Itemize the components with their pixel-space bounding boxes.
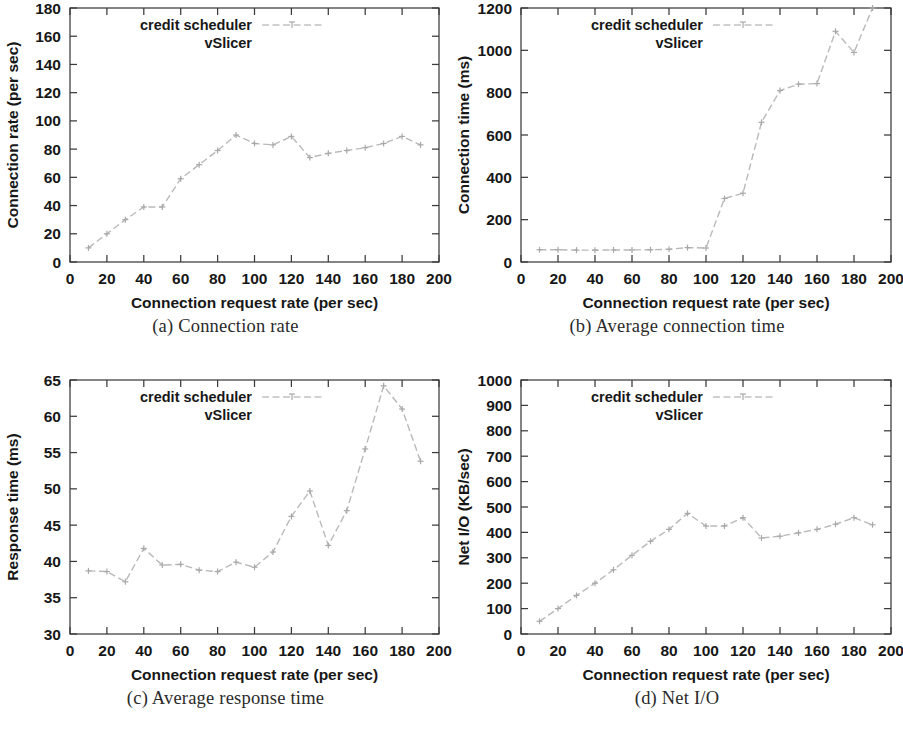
x-tick-label-1: 20 [549,642,566,659]
panel-c-caption: (c) Average response time [0,688,451,709]
data-line [88,135,420,248]
data-point [555,247,561,253]
y-tick-label-7: 140 [35,56,61,73]
y-tick-label-2: 40 [44,553,61,570]
y-tick-label-5: 100 [35,112,61,129]
data-point [362,446,368,452]
data-point [870,5,876,11]
x-tick-label-6: 120 [278,642,304,659]
data-point [777,533,783,539]
series-credit-scheduler [537,5,876,253]
x-tick-label-6: 120 [730,642,756,659]
data-point [722,523,728,529]
y-axis-title: Net I/O (KB/sec) [455,448,472,565]
x-tick-label-8: 160 [804,642,830,659]
x-tick-label-0: 0 [517,270,526,287]
x-tick-label-5: 100 [242,270,268,287]
data-point [833,521,839,527]
data-point [870,522,876,528]
y-tick-label-1: 200 [486,211,512,228]
data-point [722,196,728,202]
legend-label-1: vSlicer [204,35,252,51]
data-point [325,542,331,548]
plot-frame [521,8,891,262]
y-tick-label-2: 200 [486,575,512,592]
x-tick-label-5: 100 [693,270,719,287]
y-tick-label-7: 700 [486,448,512,465]
legend-label-1: vSlicer [204,407,252,423]
y-tick-label-4: 50 [44,480,61,497]
y-tick-label-4: 800 [486,84,512,101]
x-tick-label-7: 140 [767,270,793,287]
panel-b-caption: (b) Average connection time [451,316,903,337]
y-tick-label-8: 800 [486,422,512,439]
data-point [325,150,331,156]
data-point [362,145,368,151]
data-point [592,247,598,253]
x-tick-label-4: 80 [209,270,226,287]
x-tick-label-0: 0 [66,642,75,659]
data-line [540,513,873,621]
x-tick-label-6: 120 [730,270,756,287]
data-point [418,458,424,464]
series-credit-scheduler [537,510,876,624]
x-tick-label-7: 140 [315,270,341,287]
data-point [740,190,746,196]
y-tick-label-3: 45 [44,517,62,534]
data-point [344,148,350,154]
data-point [344,508,350,514]
chart-b-plot: 0200400600800100012000204060801001201401… [451,0,903,312]
y-tick-label-4: 400 [486,524,512,541]
y-tick-label-8: 160 [35,28,61,45]
x-tick-label-4: 80 [660,642,677,659]
chart-legend: credit schedulervSlicer [591,389,773,423]
y-tick-label-1: 20 [44,225,61,242]
data-point [418,142,424,148]
y-tick-label-2: 40 [44,197,61,214]
y-tick-label-5: 55 [44,444,62,461]
x-tick-label-5: 100 [693,642,719,659]
y-tick-label-3: 600 [486,127,512,144]
series-credit-scheduler [85,383,423,585]
series-credit-scheduler [85,132,423,251]
y-tick-label-0: 0 [503,254,512,271]
chart-legend: credit schedulervSlicer [140,17,322,51]
legend-label-1: vSlicer [655,35,703,51]
x-tick-label-4: 80 [660,270,677,287]
legend-label-0: credit scheduler [140,17,252,33]
data-point [196,567,202,573]
x-tick-label-10: 200 [878,270,903,287]
x-tick-label-4: 80 [209,642,226,659]
data-point [796,81,802,87]
y-tick-label-7: 65 [44,372,62,389]
data-point [851,515,857,521]
y-tick-label-3: 60 [44,169,61,186]
data-point [233,132,239,138]
data-point [270,142,276,148]
chart-d-svg: 0100200300400500600700800900100002040608… [451,372,903,684]
x-tick-label-9: 180 [389,270,415,287]
x-axis-title: Connection request rate (per sec) [131,666,378,683]
data-point [252,140,258,146]
x-tick-label-3: 60 [172,642,189,659]
data-point [122,579,128,585]
x-tick-label-7: 140 [767,642,793,659]
panel-a-caption: (a) Connection rate [0,316,451,337]
y-tick-label-6: 600 [486,473,512,490]
chart-a-plot: 0204060801001201401601800204060801001201… [0,0,451,312]
data-point [381,140,387,146]
data-point [537,247,543,253]
chart-d-plot: 0100200300400500600700800900100002040608… [451,372,903,684]
y-tick-label-1: 100 [486,600,512,617]
data-point [685,245,691,251]
panel-b: 0200400600800100012000204060801001201401… [451,0,903,372]
y-tick-label-2: 400 [486,169,512,186]
x-tick-label-8: 160 [804,270,830,287]
x-tick-label-5: 100 [242,642,268,659]
x-tick-label-3: 60 [623,642,640,659]
x-tick-label-8: 160 [352,270,378,287]
x-tick-label-0: 0 [517,642,526,659]
x-tick-label-2: 40 [586,270,603,287]
plot-frame [70,380,439,634]
x-tick-label-2: 40 [586,642,603,659]
